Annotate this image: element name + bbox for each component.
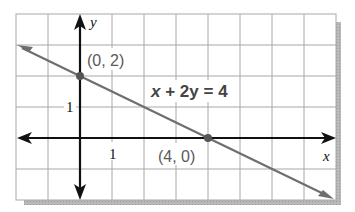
x-tick-label-1: 1 bbox=[109, 146, 117, 162]
shadow-right bbox=[336, 22, 341, 205]
point-4-0 bbox=[204, 134, 212, 142]
graph-svg: y x 1 1 (0, 2) (4, 0) x + 2y = 4 bbox=[0, 0, 355, 212]
point-a-label: (0, 2) bbox=[87, 52, 124, 69]
shadow-bottom bbox=[24, 200, 341, 205]
point-b-label: (4, 0) bbox=[158, 148, 195, 165]
equation-label: x + 2y = 4 bbox=[150, 82, 228, 101]
point-0-2 bbox=[76, 72, 84, 80]
x-axis-label: x bbox=[322, 148, 330, 164]
coordinate-plane-figure: y x 1 1 (0, 2) (4, 0) x + 2y = 4 bbox=[0, 0, 355, 212]
y-tick-label-1: 1 bbox=[66, 99, 74, 115]
y-axis-label: y bbox=[88, 14, 97, 30]
